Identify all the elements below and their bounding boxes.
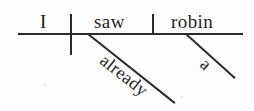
- verb-object-divider-line: [152, 14, 154, 34]
- subject-verb-divider-line: [70, 14, 72, 55]
- sentence-diagram-canvas: I saw robin already a: [0, 0, 254, 111]
- paper-speck: [44, 84, 46, 86]
- direct-object-word: robin: [171, 12, 213, 31]
- verb-word: saw: [94, 12, 125, 31]
- diagram-baseline: [18, 33, 243, 35]
- subject-word: I: [40, 12, 47, 31]
- article-modifier-word: a: [197, 55, 215, 74]
- paper-speck: [181, 96, 183, 98]
- adverb-modifier-word: already: [97, 51, 151, 99]
